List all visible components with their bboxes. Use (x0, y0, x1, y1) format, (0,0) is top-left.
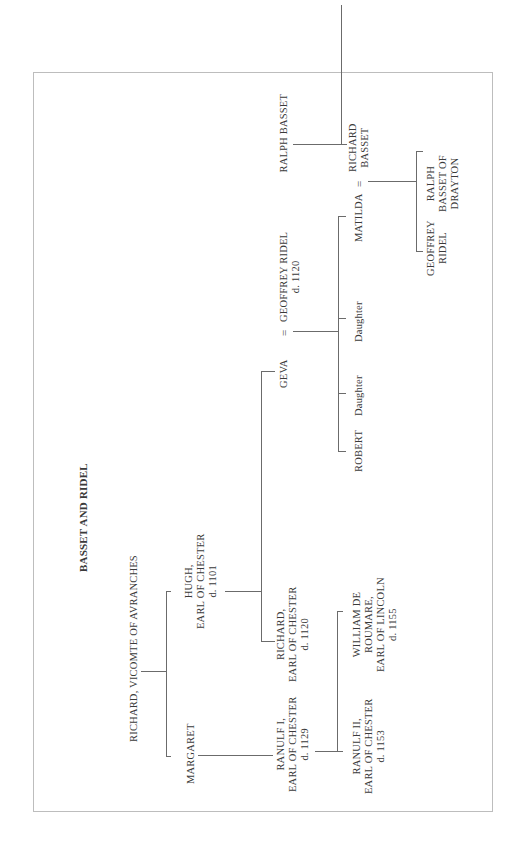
person-william-de-roumare: WILLIAM DEROUMARE,EARL OF LINCOLNd. 1155 (351, 577, 399, 672)
line (341, 5, 342, 145)
marriage-sign: = (278, 330, 290, 336)
line (338, 217, 339, 452)
person-daughter: Daughter (353, 301, 365, 342)
line (338, 216, 346, 217)
line (166, 592, 167, 757)
person-hugh: HUGH,EARL OF CHESTERd. 1101 (183, 534, 219, 629)
person-daughter: Daughter (353, 375, 365, 416)
person-robert: ROBERT (353, 430, 365, 472)
line (141, 671, 166, 672)
marriage-sign: = (353, 181, 365, 187)
line (416, 151, 423, 152)
person-richard-basset: RICHARDBASSET (347, 123, 371, 172)
person-ralph-basset: RALPH BASSET (278, 94, 290, 173)
line (166, 591, 171, 592)
line (166, 756, 171, 757)
person-ranulf-i: RANULF I,EARL OF CHESTERd. 1129 (275, 697, 311, 792)
line (338, 393, 346, 394)
line (198, 755, 273, 756)
line (315, 751, 337, 752)
line (261, 372, 262, 642)
line (261, 641, 275, 642)
person-ranulf-ii: RANULF II,EARL OF CHESTERd. 1153 (351, 699, 387, 794)
person-richard-earl: RICHARD,EARL OF CHESTERd. 1120 (275, 587, 311, 682)
line (225, 591, 261, 592)
line (338, 318, 346, 319)
person-margaret: MARGARET (185, 723, 197, 784)
person-ralph-basset-of-drayton: RALPHBASSET OFDRAYTON (425, 155, 461, 212)
line (368, 181, 416, 182)
chart-title: BASSET AND RIDEL (77, 463, 89, 572)
line (337, 611, 343, 612)
family-tree-basset-ridel: BASSET AND RIDEL RICHARD, VICOMTE OF AVR… (33, 72, 493, 812)
line (337, 751, 343, 752)
person-geoffrey-ridel: GEOFFREY RIDELd. 1120 (278, 232, 302, 322)
person-geoffrey-ridel-jr: GEOFFREYRIDEL (425, 220, 449, 276)
person-richard-vicomte: RICHARD, VICOMTE OF AVRANCHES (128, 555, 140, 742)
line (338, 451, 346, 452)
line (341, 144, 347, 145)
line (293, 331, 338, 332)
line (416, 251, 423, 252)
person-geva: GEVA (278, 359, 290, 388)
line (261, 371, 275, 372)
person-matilda: MATILDA (353, 193, 365, 242)
line (416, 152, 417, 252)
line (337, 612, 338, 752)
line (293, 144, 341, 145)
